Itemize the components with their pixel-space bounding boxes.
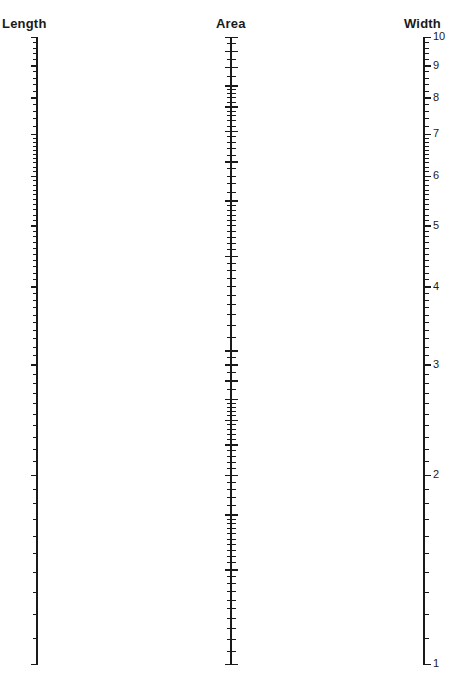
width-major-tick <box>425 225 431 227</box>
length-minor-tick <box>33 142 37 143</box>
length-minor-tick <box>33 330 37 331</box>
width-minor-tick <box>425 614 429 615</box>
length-minor-tick <box>33 638 37 639</box>
area-minor-tick <box>227 556 231 557</box>
width-tick-label: 2 <box>433 469 439 480</box>
width-minor-tick <box>425 403 429 404</box>
area-minor-tick <box>232 183 236 184</box>
area-minor-tick <box>232 456 236 457</box>
length-minor-tick <box>33 347 37 348</box>
area-major-tick <box>225 67 231 69</box>
area-minor-tick <box>227 489 231 490</box>
area-major-tick <box>225 161 231 163</box>
area-minor-tick <box>232 618 236 619</box>
width-minor-tick <box>425 185 429 186</box>
width-minor-tick <box>425 273 429 274</box>
length-minor-tick <box>33 322 37 323</box>
width-minor-tick <box>425 338 429 339</box>
width-minor-tick <box>425 248 429 249</box>
width-minor-tick <box>425 209 429 210</box>
area-minor-tick <box>232 278 236 279</box>
length-scale-title: Length <box>2 16 47 31</box>
area-minor-tick <box>227 136 231 137</box>
area-major-tick <box>232 37 238 39</box>
area-minor-tick <box>227 43 231 44</box>
area-minor-tick <box>227 372 231 373</box>
length-minor-tick <box>33 199 37 200</box>
length-minor-tick <box>33 209 37 210</box>
area-major-tick <box>232 131 238 133</box>
width-minor-tick <box>425 279 429 280</box>
length-minor-tick <box>33 242 37 243</box>
length-minor-tick <box>33 146 37 147</box>
width-minor-tick <box>425 519 429 520</box>
area-minor-tick <box>227 93 231 94</box>
length-minor-tick <box>33 553 37 554</box>
area-major-tick <box>232 85 238 87</box>
length-minor-tick <box>33 48 37 49</box>
area-minor-tick <box>227 286 231 287</box>
width-minor-tick <box>425 254 429 255</box>
area-major-tick <box>232 350 238 352</box>
area-minor-tick <box>227 497 231 498</box>
area-minor-tick <box>227 357 231 358</box>
length-minor-tick <box>33 437 37 438</box>
length-minor-tick <box>33 180 37 181</box>
width-minor-tick <box>425 204 429 205</box>
area-minor-tick <box>232 550 236 551</box>
area-minor-tick <box>232 429 236 430</box>
width-minor-tick <box>425 194 429 195</box>
area-major-tick <box>232 399 238 401</box>
width-minor-tick <box>425 374 429 375</box>
width-minor-tick <box>425 553 429 554</box>
area-minor-tick <box>227 533 231 534</box>
area-minor-tick <box>232 249 236 250</box>
width-minor-tick <box>425 231 429 232</box>
area-minor-tick <box>227 102 231 103</box>
area-minor-tick <box>227 608 231 609</box>
area-minor-tick <box>232 243 236 244</box>
area-minor-tick <box>227 424 231 425</box>
area-minor-tick <box>227 482 231 483</box>
area-minor-tick <box>232 357 236 358</box>
width-minor-tick <box>425 199 429 200</box>
width-minor-tick <box>425 118 429 119</box>
area-minor-tick <box>232 155 236 156</box>
area-minor-tick <box>227 550 231 551</box>
length-major-tick <box>31 475 37 477</box>
length-minor-tick <box>33 592 37 593</box>
length-minor-tick <box>33 158 37 159</box>
width-tick-label: 3 <box>433 359 439 370</box>
area-minor-tick <box>232 325 236 326</box>
area-minor-tick <box>232 576 236 577</box>
width-major-tick <box>425 475 431 477</box>
area-minor-tick <box>227 403 231 404</box>
width-minor-tick <box>425 48 429 49</box>
length-minor-tick <box>33 194 37 195</box>
area-minor-tick <box>232 270 236 271</box>
area-minor-tick <box>232 539 236 540</box>
area-minor-tick <box>227 539 231 540</box>
width-major-tick <box>425 176 431 178</box>
width-major-tick <box>425 364 431 366</box>
length-minor-tick <box>33 84 37 85</box>
area-minor-tick <box>227 456 231 457</box>
area-minor-tick <box>227 205 231 206</box>
area-minor-tick <box>232 205 236 206</box>
area-minor-tick <box>227 225 231 226</box>
area-major-tick <box>232 51 238 53</box>
area-minor-tick <box>232 76 236 77</box>
area-minor-tick <box>232 210 236 211</box>
area-minor-tick <box>227 263 231 264</box>
area-minor-tick <box>232 148 236 149</box>
area-minor-tick <box>227 468 231 469</box>
area-minor-tick <box>227 215 231 216</box>
area-major-tick <box>225 475 231 477</box>
area-major-tick <box>225 51 231 53</box>
area-minor-tick <box>227 89 231 90</box>
area-minor-tick <box>232 389 236 390</box>
area-minor-tick <box>232 523 236 524</box>
area-minor-tick <box>227 591 231 592</box>
area-minor-tick <box>227 429 231 430</box>
area-minor-tick <box>232 434 236 435</box>
